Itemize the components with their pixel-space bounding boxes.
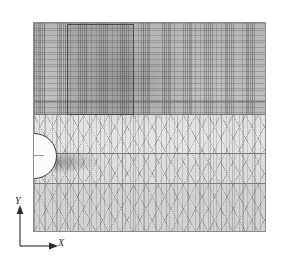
mesh-band-mid-field [34, 153, 265, 183]
axis-indicator: Y X [8, 196, 72, 258]
axis-label-x: X [58, 238, 64, 248]
mesh-band-shear-layer [34, 114, 265, 153]
mesh-figure: Y X [0, 0, 283, 272]
interface-line-lower [34, 183, 265, 184]
cylinder-centerline [33, 155, 44, 156]
zoom-region-rectangle[interactable] [67, 24, 134, 115]
interface-line-mid [34, 153, 265, 154]
axis-label-y: Y [15, 196, 21, 206]
